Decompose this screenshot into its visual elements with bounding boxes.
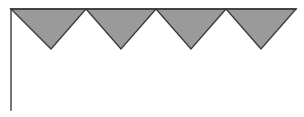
sawtooth-triangle-figure xyxy=(0,0,304,117)
figure-canvas xyxy=(0,0,304,117)
